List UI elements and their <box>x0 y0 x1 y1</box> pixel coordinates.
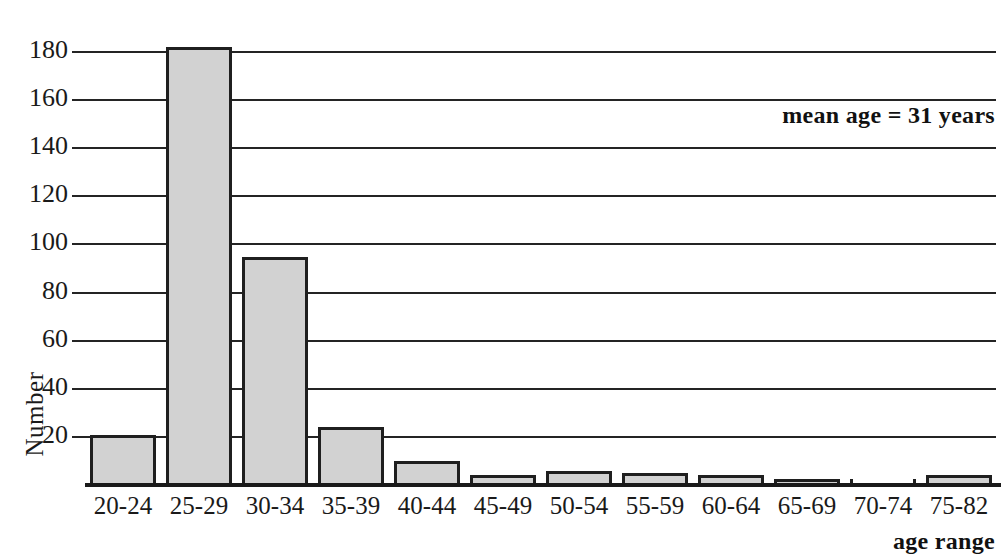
bar-30-34[interactable] <box>242 257 309 486</box>
bar-slot <box>769 28 845 485</box>
y-axis-tick <box>72 51 82 53</box>
bar-slot <box>85 28 161 485</box>
y-axis-tick-labels: 20406080100120140160180 <box>0 0 68 560</box>
bar-slot <box>617 28 693 485</box>
bar-slot <box>465 28 541 485</box>
x-tick-label: 20-24 <box>85 492 161 520</box>
bar-slot <box>541 28 617 485</box>
y-tick-label: 180 <box>8 37 68 63</box>
bar-slot <box>693 28 769 485</box>
bar-40-44[interactable] <box>394 461 461 485</box>
y-tick-label: 60 <box>8 326 68 352</box>
bar-slot <box>161 28 237 485</box>
x-tick-label: 75-82 <box>921 492 997 520</box>
y-tick-label: 100 <box>8 229 68 255</box>
plot-area <box>85 28 997 485</box>
bar-35-39[interactable] <box>318 427 385 485</box>
y-tick-label: 20 <box>8 422 68 448</box>
x-tick-label: 40-44 <box>389 492 465 520</box>
x-axis-tick-labels: 20-2425-2930-3435-3940-4445-4950-5455-59… <box>85 492 997 520</box>
bar-25-29[interactable] <box>166 47 233 485</box>
y-axis-tick <box>72 436 82 438</box>
y-axis-tick <box>72 292 82 294</box>
mean-age-annotation: mean age = 31 years <box>782 102 995 129</box>
y-axis-tick <box>72 99 82 101</box>
bar-slot <box>237 28 313 485</box>
bar-slot <box>313 28 389 485</box>
y-axis-tick <box>72 195 82 197</box>
bar-slot <box>921 28 997 485</box>
y-tick-label: 140 <box>8 133 68 159</box>
x-tick-label: 35-39 <box>313 492 389 520</box>
bar-series <box>85 28 997 485</box>
x-tick-label: 30-34 <box>237 492 313 520</box>
x-axis-title: age range <box>893 528 995 555</box>
x-tick-label: 70-74 <box>845 492 921 520</box>
x-tick-label: 55-59 <box>617 492 693 520</box>
bar-slot <box>845 28 921 485</box>
x-tick-label: 65-69 <box>769 492 845 520</box>
y-tick-label: 160 <box>8 85 68 111</box>
x-axis-line <box>85 483 1001 487</box>
bar-20-24[interactable] <box>90 435 157 486</box>
x-tick-label: 45-49 <box>465 492 541 520</box>
y-axis-tick <box>72 340 82 342</box>
bar-slot <box>389 28 465 485</box>
x-tick-label: 50-54 <box>541 492 617 520</box>
y-axis-tick <box>72 388 82 390</box>
y-tick-label: 120 <box>8 181 68 207</box>
histogram-chart: Number 20406080100120140160180 20-2425-2… <box>0 0 1003 560</box>
x-tick-label: 25-29 <box>161 492 237 520</box>
y-tick-label: 80 <box>8 278 68 304</box>
y-tick-label: 40 <box>8 374 68 400</box>
y-axis-tick <box>72 243 82 245</box>
y-axis-tick <box>72 147 82 149</box>
x-tick-label: 60-64 <box>693 492 769 520</box>
